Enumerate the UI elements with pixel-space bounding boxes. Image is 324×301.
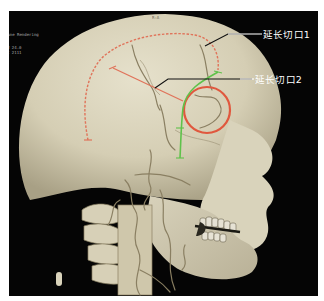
hyoid-fragment [56, 272, 62, 286]
incision-2-label: 延长切口2 [255, 74, 302, 85]
skull-reconstruction [9, 11, 318, 296]
incision-1-label: 延长切口1 [263, 29, 310, 40]
cervical-spine [82, 204, 152, 295]
scanner-overlay-line3: C 2111 [9, 50, 21, 55]
ct-image-panel: lune Rendering W 24.0 C 2111 R:A 延长切口1 延… [9, 11, 318, 296]
scanner-overlay-top-mark: R:A [152, 15, 159, 20]
scanner-overlay-line1: lune Rendering [9, 32, 39, 37]
